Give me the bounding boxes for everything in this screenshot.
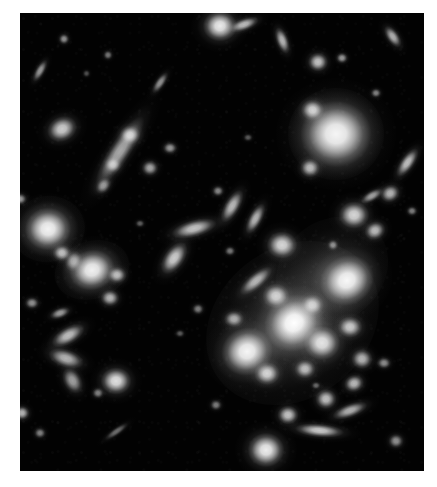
page-canvas — [0, 0, 437, 487]
astronomy-image-plate — [20, 13, 424, 471]
sky-noise-grain — [20, 13, 424, 471]
